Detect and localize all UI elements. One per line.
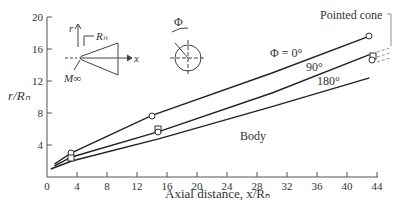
series — [51, 36, 370, 169]
phi-inset — [170, 28, 206, 76]
inset-r-label: r — [69, 22, 74, 34]
phi-label: Φ — [174, 15, 183, 29]
svg-text:0: 0 — [44, 180, 50, 192]
phi90-label: 90° — [306, 60, 323, 74]
inset-minf-label: M∞ — [63, 72, 81, 84]
inset-x-label: x — [133, 52, 139, 64]
svg-text:16: 16 — [32, 43, 44, 55]
svg-text:4: 4 — [38, 139, 44, 151]
pointed-cone-bracket — [387, 14, 391, 46]
phi0-label: Φ = 0° — [270, 46, 303, 60]
chart: 48121620 048121620242832364044 r/Rₙ Axia… — [0, 0, 396, 201]
svg-text:44: 44 — [372, 180, 384, 192]
x-axis-label: Axial distance, x/Rₙ — [165, 186, 270, 201]
pointed-cone-dashes — [377, 48, 390, 62]
svg-text:8: 8 — [38, 107, 44, 119]
data-markers — [68, 33, 376, 161]
pointed-cone-label: Pointed cone — [320, 8, 382, 22]
y-axis-label: r/Rₙ — [8, 88, 31, 103]
svg-text:12: 12 — [132, 180, 143, 192]
phi180-label: 180° — [317, 74, 340, 88]
svg-text:12: 12 — [32, 75, 43, 87]
svg-text:36: 36 — [312, 180, 324, 192]
svg-text:8: 8 — [104, 180, 110, 192]
inset-rn-label: Rₙ — [95, 30, 108, 42]
body-label: Body — [240, 129, 266, 143]
svg-text:40: 40 — [342, 180, 354, 192]
svg-text:4: 4 — [74, 180, 80, 192]
y-ticks: 48121620 — [32, 11, 52, 151]
svg-text:20: 20 — [32, 11, 44, 23]
svg-text:32: 32 — [282, 180, 293, 192]
